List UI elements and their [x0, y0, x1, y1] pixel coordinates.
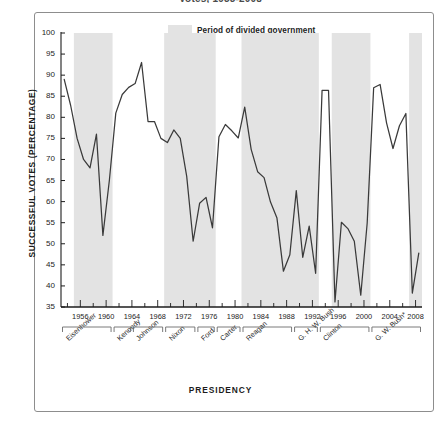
chart-plot-area [0, 0, 441, 424]
figure-container: Votes, 1953-2008 Period of divided gover… [0, 0, 441, 424]
presidency-brackets [63, 327, 421, 332]
